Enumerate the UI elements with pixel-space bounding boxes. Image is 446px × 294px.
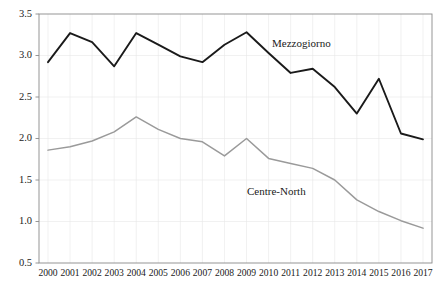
x-tick-label: 2004 [127,267,146,278]
x-tick-label: 2003 [105,267,124,278]
series-label-centre-north: Centre-North [247,185,306,197]
y-tick-label: 3.5 [19,8,32,19]
x-tick-label: 2014 [347,267,366,278]
x-tick-label: 2010 [259,267,278,278]
x-tick-label: 2001 [60,267,79,278]
series-line-mezzogiorno [48,32,423,139]
x-tick-label: 2000 [38,267,57,278]
x-tick-label: 2008 [215,267,234,278]
x-tick-label: 2012 [303,267,322,278]
series-label-mezzogiorno: Mezzogiorno [272,37,331,49]
x-tick-label: 2006 [171,267,190,278]
y-tick-label: 1.0 [19,215,32,226]
x-tick-label: 2016 [391,267,410,278]
x-tick-label: 2002 [83,267,102,278]
y-axis-labels: 0.51.01.52.02.53.03.5 [19,8,32,268]
x-tick-label: 2015 [369,267,388,278]
x-tick-label: 2013 [325,267,344,278]
y-tick-label: 2.0 [19,132,32,143]
x-tick-label: 2017 [413,267,432,278]
line-chart: 0.51.01.52.02.53.03.5 200020012002200320… [0,0,446,294]
series-line-centre-north [48,117,423,228]
x-tick-label: 2011 [281,267,300,278]
y-axis-ticks [36,14,40,263]
y-tick-label: 0.5 [19,257,32,268]
x-tick-label: 2009 [237,267,256,278]
series-lines [48,32,423,228]
y-tick-label: 2.5 [19,91,32,102]
y-tick-label: 3.0 [19,49,32,60]
y-tick-label: 1.5 [19,174,32,185]
x-axis-labels: 2000200120022003200420052006200720082009… [38,267,432,278]
chart-canvas: 0.51.01.52.02.53.03.5 200020012002200320… [0,0,446,294]
x-tick-label: 2005 [149,267,168,278]
x-tick-label: 2007 [193,267,212,278]
